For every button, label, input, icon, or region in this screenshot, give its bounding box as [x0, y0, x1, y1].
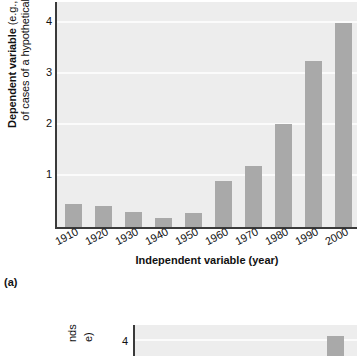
x-tick-label-1930: 1930 — [113, 226, 140, 247]
y-axis-title-b-fragment-2: e) — [82, 332, 94, 342]
x-tick-label-1950: 1950 — [173, 226, 200, 247]
bar-1960 — [215, 181, 232, 227]
x-axis-title: Independent variable (year) — [57, 254, 357, 266]
x-tick-label-1980: 1980 — [263, 226, 290, 247]
y-axis-line-b — [133, 325, 135, 356]
bar-1920 — [95, 206, 112, 227]
bar-1980 — [275, 124, 292, 227]
plot-area-b — [135, 325, 357, 356]
y-tick-label-3: 3 — [30, 67, 52, 78]
gridline-4 — [57, 21, 357, 23]
plot-area — [57, 2, 357, 227]
y-tick-label-b-4: 4 — [112, 336, 128, 347]
y-axis-title-line-1-tail: (e.g., thousands — [6, 0, 18, 28]
bar-b-last — [327, 336, 344, 356]
x-tick-label-2000: 2000 — [323, 226, 350, 247]
x-tick-label-1920: 1920 — [83, 226, 110, 247]
x-tick-label-1990: 1990 — [293, 226, 320, 247]
x-tick-label-1970: 1970 — [233, 226, 260, 247]
y-tick-label-4: 4 — [30, 16, 52, 27]
bar-2000 — [335, 23, 352, 227]
y-axis-tick-labels: 4 3 2 1 — [26, 0, 52, 230]
y-axis-line — [55, 2, 57, 229]
y-axis-title-b-fragment-1: nds — [66, 324, 78, 342]
figure-panel-b: nds e) 4 — [0, 322, 357, 356]
figure-panel-a: Dependent variable (e.g., thousands of c… — [0, 0, 357, 268]
bar-1990 — [305, 61, 322, 227]
y-tick-label-1: 1 — [30, 169, 52, 180]
x-tick-label-1960: 1960 — [203, 226, 230, 247]
x-tick-label-1910: 1910 — [53, 226, 80, 247]
y-axis-title-line-1: Dependent variable (e.g., thousands — [6, 0, 19, 150]
y-tick-label-2: 2 — [30, 118, 52, 129]
bar-1910 — [65, 204, 82, 227]
bar-1970 — [245, 166, 262, 227]
x-tick-label-1940: 1940 — [143, 226, 170, 247]
y-axis-title-emphasis: Dependent variable — [6, 28, 18, 128]
panel-caption-a: (a) — [4, 276, 17, 288]
gridline-b-4 — [135, 339, 357, 341]
